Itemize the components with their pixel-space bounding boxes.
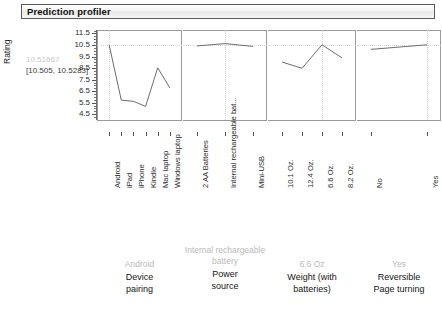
factor-current-value[interactable]: Yes [357, 259, 441, 270]
factor-name: ReversiblePage turning [357, 272, 441, 295]
factor-name: Devicepairing [97, 272, 182, 295]
factor-footer: Internal AndroidDevicepairingInternal re… [0, 225, 442, 315]
x-tick-mark [197, 132, 198, 136]
x-tick-label[interactable]: Yes [431, 176, 440, 188]
x-tick-mark [225, 132, 226, 136]
factor-block[interactable]: YesReversiblePage turning [357, 259, 441, 295]
x-tick-mark [158, 132, 159, 136]
x-tick-mark [427, 132, 428, 136]
x-tick-mark [170, 132, 171, 136]
x-tick-label[interactable]: 2 AA Batteries [201, 140, 210, 188]
factor-name: Powersource [183, 269, 267, 292]
x-tick-label[interactable]: Kindle [149, 167, 158, 188]
x-tick-mark [146, 132, 147, 136]
factor-block[interactable]: 6.6 OzWeight (withbatteries) [268, 259, 356, 295]
x-tick-label[interactable]: Mac laptop [161, 151, 170, 188]
series-line [0, 22, 442, 132]
prediction-profiler-plot: Rating 10.51667 [10.505, 10.5283] 11.510… [0, 22, 442, 132]
x-tick-mark [109, 132, 110, 136]
x-tick-label[interactable]: 10.1 Oz. [286, 159, 295, 188]
x-tick-mark [342, 132, 343, 136]
x-tick-mark [302, 132, 303, 136]
x-tick-label[interactable]: 8.2 Oz. [346, 164, 355, 188]
factor-current-value[interactable]: Internal rechargeablebattery [183, 245, 267, 267]
x-tick-label[interactable]: iPhone [137, 164, 146, 188]
x-tick-label[interactable]: 6.6 Oz. [326, 164, 335, 188]
factor-current-value[interactable]: 6.6 Oz [268, 259, 356, 270]
x-tick-mark [282, 132, 283, 136]
x-tick-mark [322, 132, 323, 136]
x-axis-labels: AndroidiPadiPhoneKindleMac laptopWindows… [0, 132, 442, 194]
x-tick-mark [121, 132, 122, 136]
x-tick-label[interactable]: Internal rechargeable bat... [229, 97, 238, 188]
x-tick-label[interactable]: Android [113, 162, 122, 188]
x-tick-label[interactable]: iPad [125, 173, 134, 188]
factor-block[interactable]: Internal rechargeablebatteryPowersource [183, 245, 267, 292]
factor-name: Weight (withbatteries) [268, 272, 356, 295]
x-tick-label[interactable]: Mini-USB [257, 156, 266, 188]
x-tick-mark [253, 132, 254, 136]
x-tick-label[interactable]: No [375, 178, 384, 188]
x-tick-label[interactable]: Windows laptop [173, 134, 182, 188]
page-title: Prediction profiler [27, 6, 111, 17]
panel-titlebar[interactable]: Prediction profiler [21, 4, 435, 19]
factor-block[interactable]: AndroidDevicepairing [97, 259, 182, 295]
x-tick-label[interactable]: 12.4 Oz. [306, 159, 315, 188]
factor-current-value[interactable]: Android [97, 259, 182, 270]
x-tick-mark [371, 132, 372, 136]
x-tick-mark [133, 132, 134, 136]
